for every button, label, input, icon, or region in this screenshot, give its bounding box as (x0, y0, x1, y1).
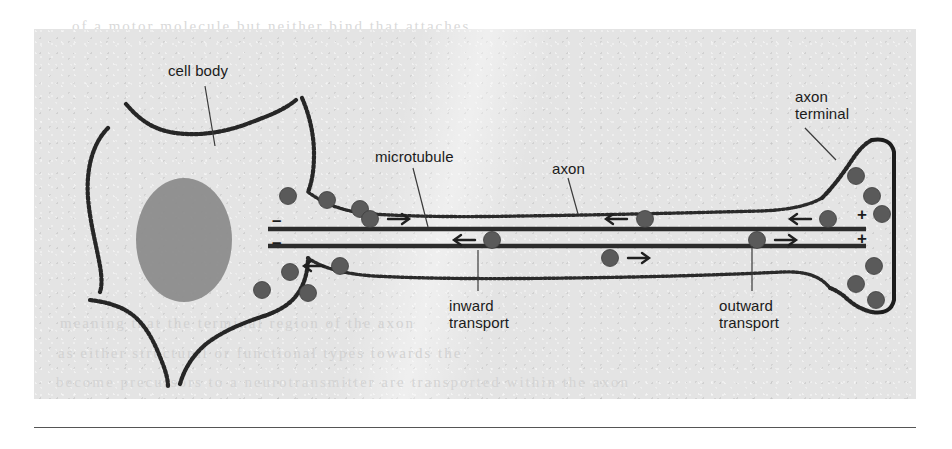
label-axon-terminal: axon terminal (795, 88, 849, 122)
label-inward-transport-line2: transport (449, 314, 509, 331)
label-outward-transport-line2: transport (719, 314, 779, 331)
label-axon: axon (552, 160, 585, 177)
figure-page: of a motor molecule but neither bind tha… (0, 0, 952, 449)
figure-panel (34, 29, 916, 399)
ghost-text-bottom3: become precursors to a neurotransmitter … (56, 374, 630, 391)
panel-paper-grain (34, 29, 916, 399)
microtubule-minus-end-lower: – (272, 234, 281, 251)
label-inward-transport: inward transport (449, 297, 509, 331)
figure-bottom-rule (34, 427, 916, 428)
microtubule-plus-end-upper: + (857, 206, 867, 223)
label-axon-terminal-line1: axon (795, 88, 849, 105)
ghost-text-bottom2: as either structural or functional types… (58, 345, 462, 362)
panel-scan-sheen (34, 29, 916, 399)
label-inward-transport-line1: inward (449, 297, 509, 314)
ghost-text-bottom1: meaning that the terminal region of the … (60, 315, 415, 332)
label-microtubule: microtubule (375, 148, 454, 165)
microtubule-minus-end-upper: – (272, 212, 281, 229)
label-cell-body: cell body (168, 62, 228, 79)
label-outward-transport: outward transport (719, 297, 779, 331)
microtubule-plus-end-lower: + (857, 230, 867, 247)
label-outward-transport-line1: outward (719, 297, 779, 314)
label-axon-terminal-line2: terminal (795, 105, 849, 122)
